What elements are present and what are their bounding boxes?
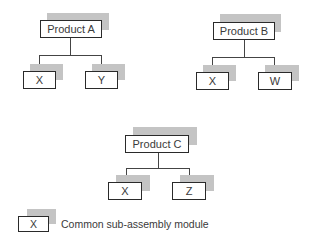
node-label: X	[209, 75, 216, 87]
node-label: W	[270, 75, 280, 87]
node-label: Z	[186, 185, 193, 197]
node-product-c: Product C	[125, 135, 189, 153]
connector-vertical	[70, 38, 71, 55]
node-module-x: X	[196, 72, 229, 90]
connector-horizontal	[126, 168, 190, 169]
legend-symbol: X	[18, 216, 49, 232]
node-label: X	[121, 185, 128, 197]
node-product-a: Product A	[40, 20, 102, 38]
node-label: Product A	[47, 23, 95, 35]
connector-vertical	[158, 153, 159, 168]
connector-horizontal	[39, 55, 102, 56]
node-module-y: Y	[85, 71, 118, 89]
node-label: Product B	[220, 25, 268, 37]
node-module-z: Z	[172, 182, 206, 200]
legend-symbol-label: X	[30, 218, 37, 230]
node-module-x: X	[108, 182, 142, 200]
node-module-w: W	[258, 72, 292, 90]
legend-description: Common sub-assembly module	[61, 218, 209, 230]
node-module-x: X	[23, 71, 56, 89]
node-label: Y	[98, 74, 105, 86]
node-label: Product C	[133, 138, 182, 150]
connector-vertical	[244, 40, 245, 57]
node-label: X	[36, 74, 43, 86]
node-product-b: Product B	[213, 22, 275, 40]
connector-horizontal	[212, 57, 275, 58]
